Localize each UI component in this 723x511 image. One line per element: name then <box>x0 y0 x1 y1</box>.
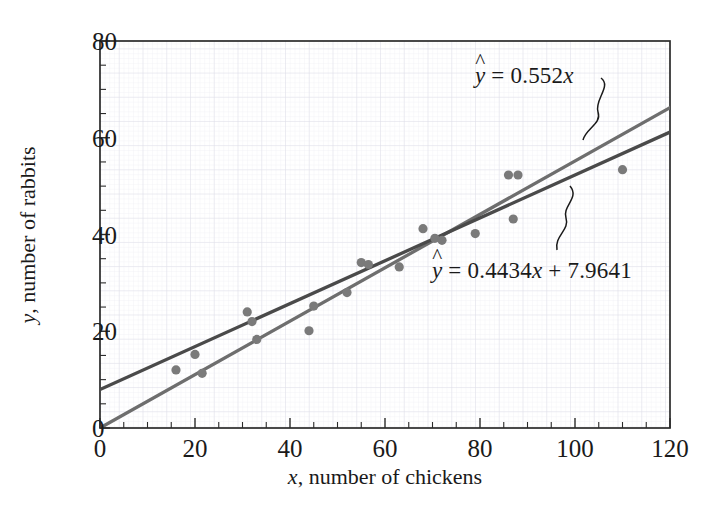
x-tick-label-100: 100 <box>556 436 594 461</box>
data-point <box>471 229 480 238</box>
data-point <box>418 224 427 233</box>
x-tick-label-20: 20 <box>183 436 208 461</box>
data-point <box>309 302 318 311</box>
data-point <box>504 170 513 179</box>
data-point <box>509 214 518 223</box>
data-point <box>252 335 261 344</box>
data-point <box>171 365 180 374</box>
equation-body: = 0.4434 <box>442 258 532 283</box>
x-axis-title: x, number of chickens <box>288 466 482 488</box>
y-axis-title-text: , number of rabbits <box>15 146 40 313</box>
data-point <box>618 165 627 174</box>
y-axis-title-variable: y <box>15 314 40 324</box>
data-point <box>247 317 256 326</box>
data-point <box>198 369 207 378</box>
x-tick-label-60: 60 <box>373 436 398 461</box>
y-axis-title: y, number of rabbits <box>17 146 39 323</box>
data-point <box>513 170 522 179</box>
equation-yhat-symbol: y <box>432 259 442 282</box>
equation-label-least-squares: y = 0.4434x + 7.9641 <box>432 259 632 282</box>
x-tick-label-120: 120 <box>651 436 689 461</box>
equation-label-through-origin: y = 0.552x <box>475 64 574 87</box>
x-axis-title-text: , number of chickens <box>298 464 483 489</box>
equation-tail: + 7.9641 <box>542 258 632 283</box>
scatter-plot-figure: 0 20 40 60 80 100 120 0 20 40 60 80 x, n… <box>0 0 723 511</box>
plot-canvas <box>0 0 723 511</box>
equation-x-variable: x <box>563 63 573 88</box>
x-axis-title-variable: x <box>288 464 298 489</box>
data-point <box>304 326 313 335</box>
data-point <box>190 350 199 359</box>
equation-yhat-symbol: y <box>475 64 485 87</box>
x-tick-label-40: 40 <box>278 436 303 461</box>
plot-grid <box>100 41 670 428</box>
data-point <box>395 262 404 271</box>
data-point <box>364 260 373 269</box>
equation-body: = 0.552 <box>485 63 563 88</box>
data-point <box>243 307 252 316</box>
data-point <box>342 288 351 297</box>
equation-x-variable: x <box>532 258 542 283</box>
x-tick-label-80: 80 <box>468 436 493 461</box>
